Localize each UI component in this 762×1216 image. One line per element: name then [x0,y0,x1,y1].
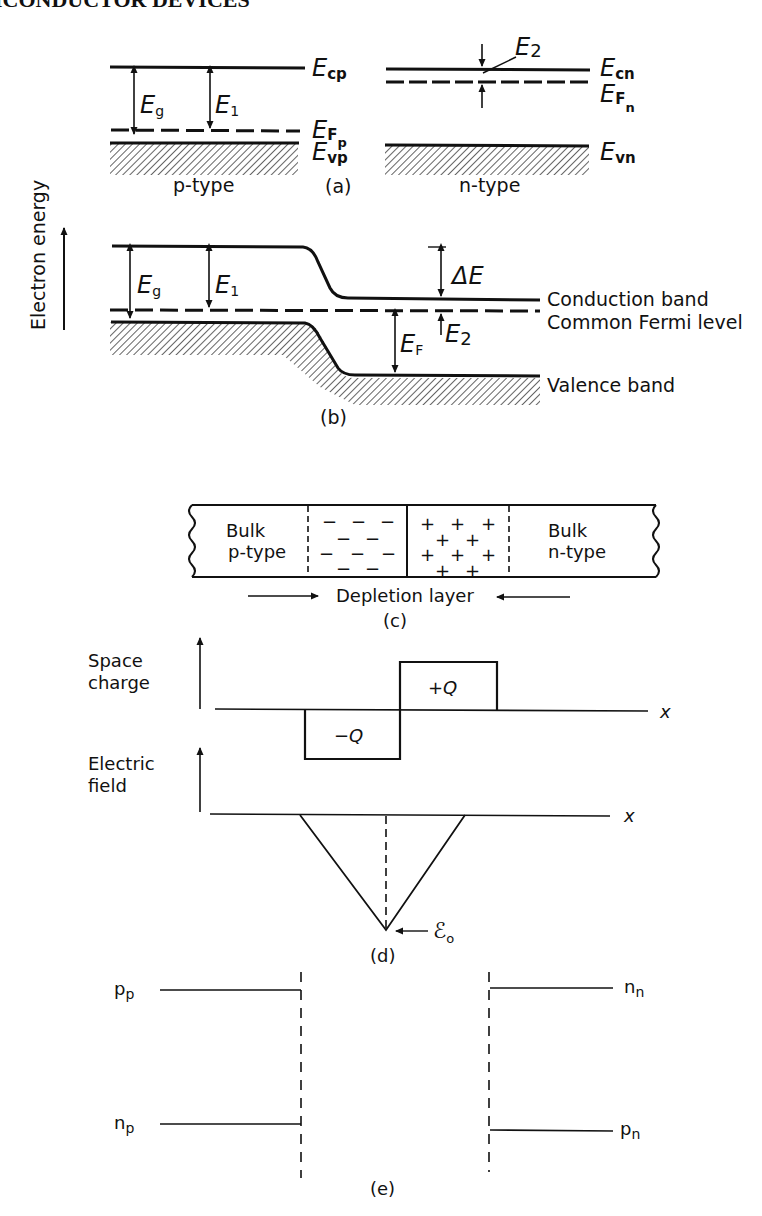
positive-charges: + + + + + + + + + + [420,513,496,581]
ecn-label: Ecn [600,54,635,83]
n-type-label: n-type [459,174,520,196]
eg-label: Eg [140,91,164,119]
panel-b: Eg E1 ΔE EF E2 Conduction band Common Fe… [110,246,743,428]
svg-text:−: − [322,511,337,532]
valence-band-label: Valence band [547,374,675,396]
electric-field-label-1: Electric [88,753,155,774]
caption-d: (d) [370,945,395,966]
x-axis-label-2: x [623,805,635,826]
svg-text:−: − [351,511,366,532]
panel-c: Bulk p-type Bulk n-type − − − − − − − − … [189,505,659,631]
efp-dashed-line [111,130,300,131]
space-charge-label-1: Space [88,650,143,671]
efn-label: EFn [600,80,635,115]
caption-a: (a) [325,175,351,197]
np-label: np [114,1112,134,1136]
electric-field-label-2: field [88,775,127,796]
svg-text:+: + [435,560,450,581]
svg-text:−: − [365,558,380,579]
negative-charges: − − − − − − − − − − [319,511,396,579]
svg-text:+: + [481,544,496,565]
svg-text:−: − [336,528,351,549]
nn-label: nn [624,976,644,1000]
svg-text:−: − [319,543,334,564]
minus-q-label: −Q [334,725,363,746]
svg-text:+: + [450,513,465,534]
valence-band-hatch [110,322,540,405]
conduction-band-label: Conduction band [547,288,709,310]
valence-hatch-n [385,145,589,175]
pn-level [490,1130,613,1131]
svg-text:+: + [465,560,480,581]
bulk-n-label: Bulk [548,520,588,541]
evn-line [385,145,589,146]
e2-label-a: E2 [515,33,542,61]
valence-hatch-p [110,143,298,175]
panel-d: Space charge x +Q −Q Electric field x ℰo… [88,638,671,966]
svg-text:+: + [420,513,435,534]
electric-field-x-axis [210,814,610,816]
caption-b: (b) [320,406,347,428]
ef-label: EF [400,330,423,358]
pp-label: pp [114,978,134,1002]
bulk-p-type-label: p-type [228,541,286,562]
svg-text:−: − [336,558,351,579]
panel-a: Eg E1 Ecp EFp Evp p-type E2 Ecn EFn Evn … [110,33,636,197]
pn-label: pn [620,1118,640,1142]
electric-field-triangle [300,815,465,930]
svg-text:+: + [435,529,450,550]
x-axis-label-1: x [659,701,671,722]
peak-field-label: ℰo [433,918,454,946]
eg-label-b: Eg [137,271,161,299]
svg-text:−: − [350,543,365,564]
caption-c: (c) [383,610,407,631]
svg-text:−: − [365,528,380,549]
common-fermi-dashed-line [110,310,540,311]
bulk-p-label: Bulk [226,520,266,541]
delta-e-label: ΔE [450,262,484,290]
electron-energy-label: Electron energy [27,180,49,330]
bulk-n-type-label: n-type [548,541,606,562]
caption-e: (e) [370,1178,395,1199]
e1-label: E1 [215,91,239,119]
svg-text:−: − [381,543,396,564]
space-charge-label-2: charge [88,672,150,693]
common-fermi-level-label: Common Fermi level [547,311,743,333]
panel-e: pp np nn pn (e) [114,972,644,1199]
electron-energy-axis: Electron energy [27,180,64,330]
svg-text:+: + [420,544,435,565]
ecp-line [110,67,305,68]
evn-label: Evn [600,138,636,167]
depletion-layer-label: Depletion layer [336,585,474,606]
e1-label-b: E1 [215,271,239,299]
ecp-label: Ecp [312,54,347,83]
pn-junction-figure: ICONDUCTOR DEVICES Eg E1 Ecp EFp Evp p-t… [0,0,762,1216]
svg-text:−: − [380,511,395,532]
svg-text:+: + [481,513,496,534]
running-header: ICONDUCTOR DEVICES [0,0,250,12]
p-type-label: p-type [173,174,234,196]
space-charge-x-axis [215,709,648,711]
svg-text:+: + [465,529,480,550]
svg-text:+: + [450,544,465,565]
e2-label-b: E2 [445,320,472,349]
plus-q-label: +Q [428,677,457,698]
